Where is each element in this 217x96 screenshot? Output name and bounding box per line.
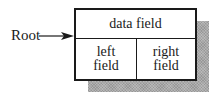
right-field-label-line2: field [153, 59, 179, 73]
right-field-label-line1: right [153, 45, 179, 59]
data-field-label: data field [109, 16, 161, 32]
left-field-label-line1: left [97, 45, 116, 59]
data-field-cell: data field [76, 10, 195, 39]
left-field-cell: left field [76, 39, 137, 79]
tree-node: data field left field right field [74, 8, 197, 81]
root-label: Root [11, 27, 40, 44]
root-pointer-arrow-icon [39, 30, 75, 42]
left-field-label-line2: field [93, 59, 119, 73]
right-field-cell: right field [137, 39, 195, 79]
